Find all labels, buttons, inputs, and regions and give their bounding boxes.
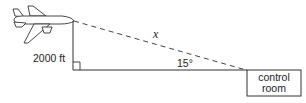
height-label: 2000 ft xyxy=(33,53,65,64)
control-room-line2: room xyxy=(262,83,286,94)
hypotenuse-label: x xyxy=(153,28,158,40)
airplane-icon xyxy=(13,6,74,43)
angle-label: 15° xyxy=(177,58,193,69)
right-angle-marker xyxy=(73,62,80,70)
control-room-label: control room xyxy=(247,70,301,96)
line-of-sight-dashed xyxy=(74,21,246,70)
